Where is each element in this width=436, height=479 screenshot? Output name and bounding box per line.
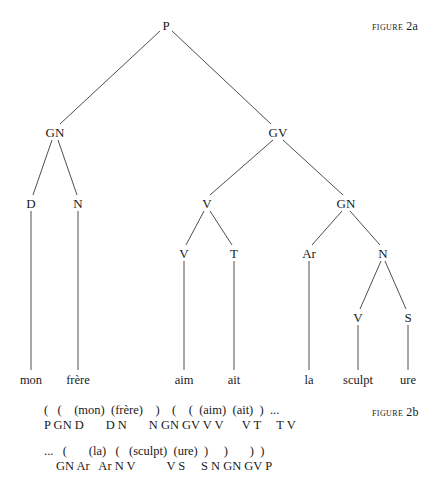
figure-word: FIGURE: [372, 406, 403, 418]
figure-2a-label: FIGURE 2a: [372, 19, 418, 34]
figure-word: FIGURE: [372, 20, 403, 32]
bracketing-line2-bottom: GN Ar Ar N V V S S N GN GV P: [56, 460, 272, 473]
edge-GV-V: [210, 140, 273, 195]
figure-number: 2a: [406, 19, 418, 33]
node-N: N: [73, 197, 82, 210]
figure-2b-label: FIGURE 2b: [372, 405, 419, 420]
node-N-object: N: [378, 247, 387, 260]
leaf-sculpt: sculpt: [343, 374, 373, 387]
node-P: P: [162, 19, 169, 32]
bracketing-line1-top: ( ( (mon) (frère) ) ( ( (aim) (ait) ) ..…: [44, 404, 279, 417]
node-S: S: [404, 311, 411, 324]
edge-P-GV: [172, 31, 271, 124]
bracketing-line2-top: ... ( (la) ( (sculpt) (ure) ) ) ) ): [44, 445, 264, 458]
leaf-aim: aim: [175, 374, 194, 387]
node-GN: GN: [46, 126, 65, 139]
node-GV: GV: [269, 126, 288, 139]
leaf-la: la: [304, 374, 313, 387]
tree-edges: [0, 0, 436, 390]
edge-P-GN: [60, 31, 160, 124]
leaf-ure: ure: [400, 374, 416, 387]
edge-V-T: [210, 211, 232, 245]
leaf-mon: mon: [20, 374, 42, 387]
node-D: D: [26, 197, 35, 210]
edge-N-S: [385, 261, 406, 309]
node-T: T: [230, 247, 238, 260]
edge-GV-GN: [283, 140, 343, 195]
node-Ar: Ar: [302, 247, 316, 260]
node-V: V: [202, 197, 211, 210]
node-V-stem: V: [179, 247, 188, 260]
edge-GN-N2: [350, 211, 380, 245]
node-GN-object: GN: [337, 197, 356, 210]
edge-GN-N: [58, 140, 77, 195]
edge-GN-D: [33, 140, 52, 195]
bracketing-line1-bottom: P GN D D N N GN GV V V V T T V: [44, 419, 296, 432]
leaf-ait: ait: [228, 374, 241, 387]
edge-N-V: [360, 261, 381, 309]
leaf-frere: frère: [66, 374, 90, 387]
figure-number: 2b: [406, 405, 419, 419]
edge-V-V: [186, 211, 204, 245]
edge-GN-Ar: [312, 211, 342, 245]
node-V-sculpt: V: [353, 311, 362, 324]
